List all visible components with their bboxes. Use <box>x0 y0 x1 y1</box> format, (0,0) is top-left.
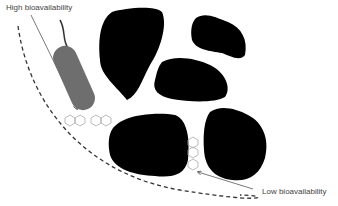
soil-particle <box>154 58 227 101</box>
soil-particle <box>109 114 189 177</box>
molecule-high <box>65 115 111 126</box>
high-bioavailability-label: High bioavailability <box>6 3 72 12</box>
soil-particle <box>204 108 267 180</box>
bioavailability-diagram <box>0 0 338 206</box>
soil-particle <box>191 15 246 58</box>
low-bioavailability-label: Low bioavailability <box>262 187 326 196</box>
bacterium <box>49 20 99 114</box>
molecule-low <box>188 137 198 170</box>
